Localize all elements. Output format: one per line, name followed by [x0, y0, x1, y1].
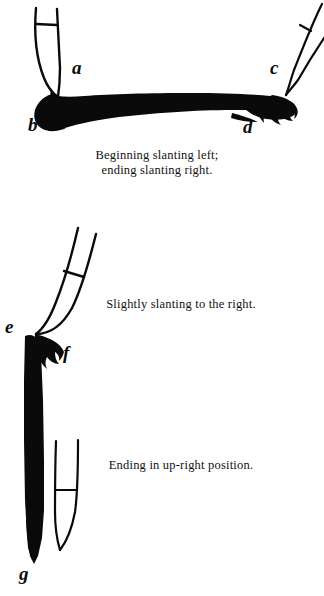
figure-caption-horizontal-stroke: Beginning slanting left; ending slanting… — [42, 148, 272, 179]
figure-caption-upright: Ending in up-right position. — [82, 458, 280, 473]
figure-caption-slanting-right: Slightly slanting to the right. — [82, 297, 280, 312]
point-label-b: b — [28, 115, 38, 134]
point-label-c: c — [270, 58, 278, 77]
point-label-e: e — [5, 317, 13, 336]
point-label-g: g — [19, 564, 29, 583]
point-label-f: f — [63, 343, 69, 362]
pen-nib-left-crossbar — [36, 24, 57, 25]
point-label-d: d — [243, 117, 253, 136]
point-label-a: a — [72, 58, 82, 77]
illustration-page: a b c d e f g Beginning slanting left; e… — [0, 0, 324, 596]
